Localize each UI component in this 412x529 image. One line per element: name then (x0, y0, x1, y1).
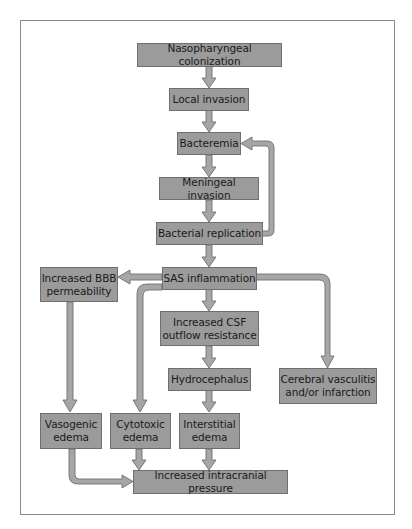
arrow-bbb-to-vasogenic (63, 302, 77, 412)
arrow-csf-to-hydrocephalus (202, 346, 216, 368)
arrows-layer (0, 0, 412, 529)
arrow-meningeal-to-replication (202, 200, 216, 222)
node-interstitial-edema: Interstitial edema (179, 413, 240, 449)
node-label: Increased intracranial pressure (134, 469, 287, 495)
node-label-line1: Interstitial (183, 418, 235, 431)
node-label: Nasopharyngeal colonization (138, 42, 281, 68)
node-bacterial-replication: Bacterial replication (156, 222, 263, 245)
node-label-line2: edema (123, 431, 159, 444)
node-label-line2: permeability (47, 285, 112, 298)
node-vasogenic-edema: Vasogenic edema (40, 413, 102, 449)
node-label: Meningeal invasion (160, 176, 258, 202)
node-cerebral-vasculitis: Cerebral vasculitis and/or infarction (279, 368, 377, 404)
node-label-line2: and/or infarction (285, 386, 370, 399)
arrow-bacteremia-to-meningeal (202, 155, 216, 177)
arrow-sas-to-bbb (118, 270, 162, 284)
node-label-line1: Vasogenic (45, 418, 97, 431)
arrow-replication-to-sas (202, 245, 216, 267)
arrow-cytotoxic-to-icp (132, 449, 146, 470)
node-label-line1: Cerebral vasculitis (281, 373, 376, 386)
node-label: Local invasion (173, 93, 246, 106)
node-increased-bbb-permeability: Increased BBB permeability (40, 267, 118, 302)
node-nasopharyngeal-colonization: Nasopharyngeal colonization (137, 43, 282, 67)
node-label: Bacterial replication (158, 227, 261, 240)
arrow-naso-to-local (202, 66, 216, 88)
node-label: SAS inflammation (163, 272, 255, 285)
arrow-hydro-to-interstitial (202, 390, 216, 412)
node-label-line1: Increased CSF (173, 316, 246, 329)
node-cytotoxic-edema: Cytotoxic edema (110, 413, 171, 449)
node-increased-intracranial-pressure: Increased intracranial pressure (133, 470, 288, 494)
node-sas-inflammation: SAS inflammation (162, 267, 257, 290)
node-label: Bacteremia (179, 137, 238, 150)
node-bacteremia: Bacteremia (177, 132, 241, 155)
arrow-sas-to-vasculitis (256, 274, 334, 368)
arrow-vasogenic-to-icp (69, 449, 133, 488)
node-local-invasion: Local invasion (169, 88, 249, 111)
node-increased-csf-outflow-resistance: Increased CSF outflow resistance (160, 311, 259, 346)
node-label-line2: edema (53, 431, 89, 444)
arrow-local-to-bacteremia (202, 110, 216, 132)
node-label: Hydrocephalus (171, 373, 248, 386)
arrow-sas-to-cytotoxic (133, 284, 162, 412)
node-label-line2: edema (192, 431, 228, 444)
node-hydrocephalus: Hydrocephalus (168, 368, 251, 391)
node-label-line1: Cytotoxic (116, 418, 164, 431)
arrow-sas-to-csf (202, 289, 216, 311)
node-label-line2: outflow resistance (162, 329, 256, 342)
node-label-line1: Increased BBB (42, 272, 117, 285)
node-meningeal-invasion: Meningeal invasion (159, 177, 259, 200)
arrow-interstitial-to-icp (202, 449, 216, 470)
